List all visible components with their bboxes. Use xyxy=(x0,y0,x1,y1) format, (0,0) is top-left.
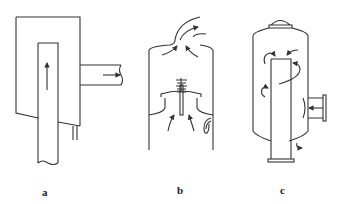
pipe-break-a xyxy=(38,161,58,165)
flow-arrow-icon xyxy=(162,46,177,55)
vessel-b-body xyxy=(149,17,200,150)
flow-arrow-icon xyxy=(287,50,298,55)
flow-arrow-icon xyxy=(180,27,198,40)
central-pipe-c xyxy=(271,59,291,159)
panel-label-b: b xyxy=(177,184,183,196)
panel-label-a: a xyxy=(42,186,48,198)
flow-arrow-icon xyxy=(261,87,268,97)
drain-b xyxy=(204,118,211,133)
flow-arrow-icon xyxy=(168,115,174,131)
side-flange-c xyxy=(323,95,326,121)
inlet-pipe-a xyxy=(38,43,58,163)
flow-arrow-icon xyxy=(186,46,198,57)
figure-canvas xyxy=(0,0,348,204)
drain-a xyxy=(73,126,77,140)
panel-b-diagram xyxy=(149,17,213,150)
panel-a-diagram xyxy=(16,17,123,165)
bottom-flange-c xyxy=(268,159,294,162)
drain-c xyxy=(297,143,302,148)
flow-arrow-icon xyxy=(279,63,300,84)
vessel-a-body xyxy=(16,17,80,126)
impingement-plate-c xyxy=(303,98,305,118)
panel-c-diagram xyxy=(253,21,326,163)
vessel-c-body xyxy=(253,28,308,141)
flow-arrow-icon xyxy=(189,115,194,131)
top-nozzle-c xyxy=(269,21,292,29)
panel-label-c: c xyxy=(280,184,285,196)
